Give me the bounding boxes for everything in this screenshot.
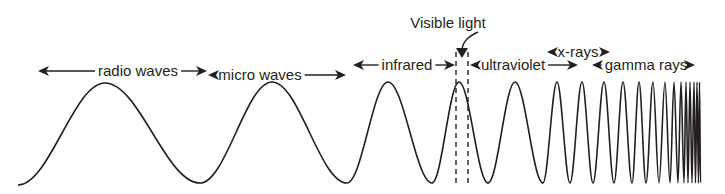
wave-curve bbox=[18, 82, 701, 185]
band-gamma: gamma rays bbox=[592, 56, 695, 73]
band-label-micro: micro waves bbox=[218, 66, 301, 83]
band-label-xrays: x-rays bbox=[558, 43, 599, 60]
band-label-radio: radio waves bbox=[98, 62, 178, 79]
band-micro: micro waves bbox=[208, 66, 346, 83]
em-spectrum-diagram: Visible light radio wavesmicro wavesinfr… bbox=[0, 0, 725, 194]
arrow-left-icon bbox=[470, 60, 481, 70]
band-labels: radio wavesmicro wavesinfraredultraviole… bbox=[38, 43, 695, 83]
band-label-gamma: gamma rays bbox=[605, 56, 688, 73]
band-label-infrared: infrared bbox=[382, 56, 433, 73]
visible-light-label: Visible light bbox=[410, 14, 486, 31]
band-xrays: x-rays bbox=[547, 43, 610, 60]
band-infrared: infrared bbox=[353, 56, 455, 73]
band-radio: radio waves bbox=[38, 62, 207, 79]
arrow-left-icon bbox=[547, 47, 558, 57]
visible-light-pointer-icon bbox=[462, 32, 478, 50]
visible-light-arrowhead-icon bbox=[456, 48, 468, 58]
band-label-ultraviolet: ultraviolet bbox=[481, 56, 546, 73]
